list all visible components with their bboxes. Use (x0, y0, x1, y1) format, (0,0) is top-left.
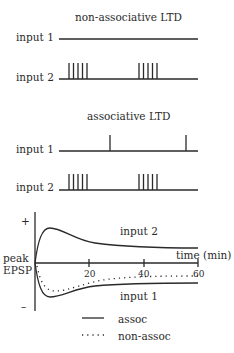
nonassoc-input2-burst-2 (139, 63, 157, 79)
curve-input1-nonassoc (37, 266, 200, 291)
assoc-input2-burst-2 (139, 174, 157, 190)
curve-input2-assoc (35, 228, 198, 263)
curve-input1-assoc (35, 263, 198, 297)
assoc-input2-burst-1 (69, 174, 87, 190)
diagram-graphics (0, 0, 234, 353)
nonassoc-input2-burst-1 (69, 63, 87, 79)
